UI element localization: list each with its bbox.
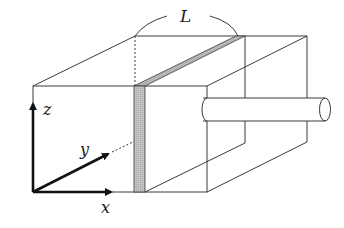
- dimension-arc-left: [135, 16, 167, 36]
- rod-body: [203, 98, 325, 121]
- slab-front-face: [134, 86, 145, 192]
- front-face: [33, 86, 207, 192]
- y-axis-label: y: [79, 140, 90, 159]
- diagram-canvas: L z y x: [0, 0, 344, 228]
- z-axis-label: z: [42, 100, 52, 119]
- top-left-edge: [33, 36, 135, 86]
- x-axis-label: x: [101, 198, 110, 217]
- slab-bottom-diagonal: [145, 143, 245, 192]
- dimension-L: L: [135, 6, 238, 36]
- dimension-arc-right: [210, 16, 238, 36]
- y-axis-arrow: [33, 154, 108, 192]
- hidden-bottom-left-edge: [112, 141, 135, 152]
- length-label: L: [179, 6, 191, 26]
- cylinder-rod: [202, 98, 331, 121]
- slab-top-face: [134, 36, 245, 86]
- bottom-right-edge: [207, 142, 307, 192]
- coordinate-axes: z y x: [33, 100, 111, 217]
